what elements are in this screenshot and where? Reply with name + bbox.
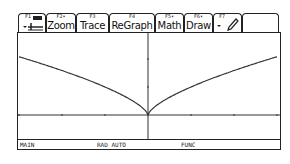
fkey-label: F2▾ (56, 13, 65, 19)
fkey-label: F3 (89, 13, 95, 19)
tab-label: Math (156, 20, 183, 32)
fkey-label: F5▾ (165, 13, 174, 19)
graph-area[interactable] (17, 33, 281, 139)
pencil-icon (214, 15, 242, 32)
toolbar: F1 F2▾ Zoom F3 Trace F4 ReGraph F5▾ Math (17, 11, 281, 33)
tab-label: Trace (77, 20, 108, 32)
graph-plot (18, 33, 280, 139)
tab-label: Zoom (47, 20, 75, 32)
status-folder: MAIN (20, 140, 34, 149)
tab-draw[interactable]: F6▾ Draw (184, 13, 213, 32)
tab-label: Draw (185, 20, 212, 32)
tab-label: ReGraph (110, 20, 154, 32)
tools-icon (19, 15, 45, 32)
fkey-label: F4 (129, 13, 135, 19)
fkey-label: F6▾ (194, 13, 203, 19)
status-mode: RAD AUTO (97, 140, 126, 149)
tab-empty[interactable] (242, 13, 279, 32)
calculator-screen: F1 F2▾ Zoom F3 Trace F4 ReGraph F5▾ Math (17, 11, 281, 151)
status-bar: MAIN RAD AUTO FUNC (17, 139, 281, 150)
tab-regraph[interactable]: F4 ReGraph (109, 13, 155, 32)
status-graph-mode: FUNC (181, 140, 195, 149)
tab-trace[interactable]: F3 Trace (76, 13, 109, 32)
tab-f1-tools[interactable]: F1 (18, 13, 46, 32)
tab-zoom[interactable]: F2▾ Zoom (46, 13, 76, 32)
tab-math[interactable]: F5▾ Math (155, 13, 184, 32)
tab-f7-pen[interactable]: F7 (213, 13, 242, 32)
